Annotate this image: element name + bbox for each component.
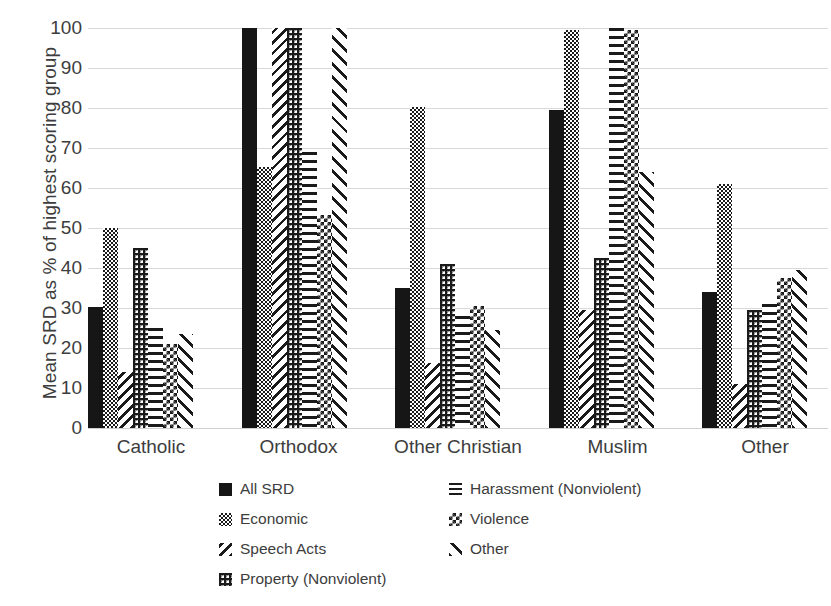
x-tick-label: Orthodox	[236, 436, 362, 464]
bar[interactable]	[395, 288, 410, 428]
bar[interactable]	[624, 30, 639, 428]
bar[interactable]	[717, 184, 732, 428]
legend-column-left: All SRDEconomicSpeech ActsProperty (Nonv…	[219, 474, 449, 594]
bar[interactable]	[148, 328, 163, 428]
bar[interactable]	[639, 172, 654, 428]
bar[interactable]	[455, 316, 470, 428]
bar[interactable]	[762, 304, 777, 428]
bar[interactable]	[579, 310, 594, 428]
bar[interactable]	[732, 384, 747, 428]
legend-item[interactable]: Speech Acts	[219, 534, 449, 564]
bar-group	[549, 28, 675, 428]
bar[interactable]	[242, 28, 257, 428]
y-axis-tick-labels: 0102030405060708090100	[20, 28, 82, 428]
legend-swatch-icon	[449, 483, 462, 496]
y-tick-label: 80	[26, 98, 82, 117]
y-tick-label: 70	[26, 138, 82, 157]
bar[interactable]	[777, 278, 792, 428]
legend-swatch-icon	[449, 513, 462, 526]
gridline	[88, 428, 828, 429]
bar[interactable]	[88, 307, 103, 428]
chart-root: Mean SRD as % of highest scoring group 0…	[0, 0, 831, 606]
bar-group	[395, 28, 521, 428]
bar[interactable]	[317, 215, 332, 428]
bar[interactable]	[425, 363, 440, 428]
plot-area	[88, 28, 828, 428]
legend-swatch-icon	[449, 543, 462, 556]
legend-swatch-icon	[219, 543, 232, 556]
legend-swatch-icon	[219, 573, 232, 586]
bar[interactable]	[470, 306, 485, 428]
legend-item-label: Harassment (Nonviolent)	[470, 480, 641, 498]
y-tick-label: 40	[26, 258, 82, 277]
bar[interactable]	[594, 258, 609, 428]
legend-item-label: All SRD	[240, 480, 294, 498]
bar[interactable]	[332, 28, 347, 428]
legend-item[interactable]: Property (Nonviolent)	[219, 564, 449, 594]
y-tick-label: 20	[26, 338, 82, 357]
y-tick-label: 30	[26, 298, 82, 317]
bar-groups	[88, 28, 828, 428]
legend-item-label: Speech Acts	[240, 540, 326, 558]
legend-item-label: Economic	[240, 510, 308, 528]
bar[interactable]	[485, 330, 500, 428]
legend-item[interactable]: All SRD	[219, 474, 449, 504]
bar-group	[88, 28, 214, 428]
bar[interactable]	[549, 110, 564, 428]
x-tick-label: Other	[702, 436, 828, 464]
legend-column-right: Harassment (Nonviolent)ViolenceOther	[449, 474, 689, 564]
bar[interactable]	[609, 28, 624, 428]
bar[interactable]	[272, 28, 287, 428]
y-tick-label: 50	[26, 218, 82, 237]
legend-item-label: Other	[470, 540, 509, 558]
legend-item-label: Violence	[470, 510, 529, 528]
x-tick-label: Other Christian	[383, 436, 533, 464]
x-tick-label: Catholic	[88, 436, 214, 464]
y-tick-label: 90	[26, 58, 82, 77]
bar[interactable]	[410, 107, 425, 428]
legend-item-label: Property (Nonviolent)	[240, 570, 386, 588]
y-tick-label: 60	[26, 178, 82, 197]
y-tick-label: 10	[26, 378, 82, 397]
bar[interactable]	[564, 30, 579, 428]
bar[interactable]	[702, 292, 717, 428]
x-axis-tick-labels: CatholicOrthodoxOther ChristianMuslimOth…	[88, 436, 828, 464]
y-tick-label: 0	[26, 418, 82, 437]
legend-item[interactable]: Other	[449, 534, 689, 564]
bar[interactable]	[118, 372, 133, 428]
legend: All SRDEconomicSpeech ActsProperty (Nonv…	[219, 474, 689, 594]
legend-item[interactable]: Violence	[449, 504, 689, 534]
legend-item[interactable]: Harassment (Nonviolent)	[449, 474, 689, 504]
y-tick-label: 100	[26, 18, 82, 37]
legend-swatch-icon	[219, 483, 232, 496]
bar[interactable]	[440, 264, 455, 428]
bar[interactable]	[287, 28, 302, 428]
bar[interactable]	[747, 310, 762, 428]
bar[interactable]	[133, 248, 148, 428]
bar[interactable]	[178, 334, 193, 428]
legend-swatch-icon	[219, 513, 232, 526]
bar[interactable]	[792, 270, 807, 428]
bar[interactable]	[257, 167, 272, 428]
bar[interactable]	[302, 152, 317, 428]
bar[interactable]	[103, 228, 118, 428]
bar[interactable]	[163, 344, 178, 428]
bar-group	[702, 28, 828, 428]
x-tick-label: Muslim	[555, 436, 681, 464]
bar-group	[242, 28, 368, 428]
legend-item[interactable]: Economic	[219, 504, 449, 534]
